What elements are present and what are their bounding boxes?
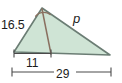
geometry-figure: 16.5 p 11 29 bbox=[0, 0, 122, 83]
base-segment-label-full: 29 bbox=[56, 68, 69, 80]
triangle-shape bbox=[14, 8, 110, 55]
base-segment-label-short: 11 bbox=[26, 57, 38, 69]
side-length-label-left: 16.5 bbox=[1, 19, 25, 32]
side-length-label-right: p bbox=[73, 12, 80, 25]
